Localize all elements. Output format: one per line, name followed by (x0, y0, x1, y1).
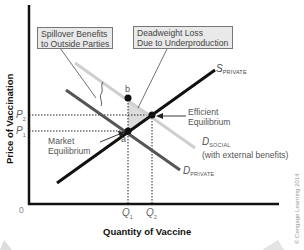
s-private-main: S (216, 63, 223, 74)
origin-label: 0 (19, 205, 24, 215)
p2-label: P2 (16, 110, 26, 121)
efficient-eq-line2: Equilibrium (188, 117, 231, 127)
market-eq-line1: Market (48, 136, 91, 146)
point-b (125, 95, 132, 102)
point-b-label: b (125, 84, 130, 94)
page-corner-decoration-right (262, 240, 284, 250)
d-social-note: (with external benefits) (202, 150, 288, 160)
spillover-callout: Spillover Benefits to Outside Parties (37, 27, 113, 49)
d-social-curve (75, 63, 195, 148)
p2-main: P (16, 109, 23, 120)
page-corner-decoration (0, 240, 12, 250)
d-private-curve (66, 90, 180, 170)
q1-sub: 1 (130, 214, 133, 220)
p1-main: P (16, 125, 23, 136)
d-private-sub: PRIVATE (190, 171, 214, 177)
efficient-eq-line1: Efficient (188, 107, 231, 117)
s-private-label: SPRIVATE (216, 64, 247, 75)
q2-label: Q2 (146, 208, 157, 219)
spillover-line1: Spillover Benefits (41, 29, 109, 39)
s-private-sub: PRIVATE (223, 69, 247, 75)
q1-label: Q1 (122, 208, 133, 219)
deadweight-pointer (138, 49, 167, 108)
q2-main: Q (146, 207, 154, 218)
deadweight-line2: Due to Underproduction (137, 38, 229, 48)
q2-sub: 2 (154, 214, 157, 220)
d-social-label: DSOCIAL (202, 137, 231, 148)
spillover-line2: to Outside Parties (41, 39, 109, 49)
p2-sub: 2 (23, 116, 26, 122)
efficient-eq-arrowhead (156, 113, 163, 119)
deadweight-callout: Deadweight Loss Due to Underproduction (133, 26, 233, 49)
d-private-label: DPRIVATE (183, 166, 214, 177)
point-efficient (149, 112, 156, 119)
efficient-equilibrium-label: Efficient Equilibrium (188, 107, 231, 127)
market-equilibrium-label: Market Equilibrium (48, 136, 91, 156)
deadweight-line1: Deadweight Loss (137, 28, 229, 38)
p1-label: P1 (16, 126, 26, 137)
p1-sub: 1 (23, 132, 26, 138)
d-social-sub: SOCIAL (209, 142, 230, 148)
market-eq-line2: Equilibrium (48, 146, 91, 156)
x-axis-title: Quantity of Vaccine (103, 226, 191, 237)
point-a-label: a (121, 134, 126, 144)
copyright-notice: © Cengage Learning 2014 (294, 174, 300, 244)
spillover-brace (100, 82, 103, 106)
q1-main: Q (122, 207, 130, 218)
y-axis-title: Price of Vaccination (4, 74, 15, 164)
